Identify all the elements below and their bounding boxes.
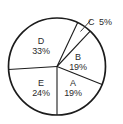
pie-label-b-name: B	[69, 52, 87, 62]
pie-label-d-value: 33%	[32, 46, 50, 56]
pie-label-a-name: A	[64, 78, 82, 88]
pie-label-c-value: 5%	[99, 17, 112, 27]
pie-label-c: C 5%	[88, 17, 112, 28]
pie-label-e-value: 24%	[32, 88, 50, 98]
pie-label-d-name: D	[32, 36, 50, 46]
pie-label-b-value: 19%	[69, 62, 87, 72]
pie-label-a: A 19%	[64, 78, 82, 98]
pie-label-c-name: C	[88, 17, 95, 27]
pie-label-e-name: E	[32, 78, 50, 88]
pie-label-a-value: 19%	[64, 88, 82, 98]
pie-label-e: E 24%	[32, 78, 50, 98]
pie-chart: D 33% B 19% E 24% A 19% C 5%	[0, 0, 123, 124]
pie-label-d: D 33%	[32, 36, 50, 56]
pie-label-b: B 19%	[69, 52, 87, 72]
